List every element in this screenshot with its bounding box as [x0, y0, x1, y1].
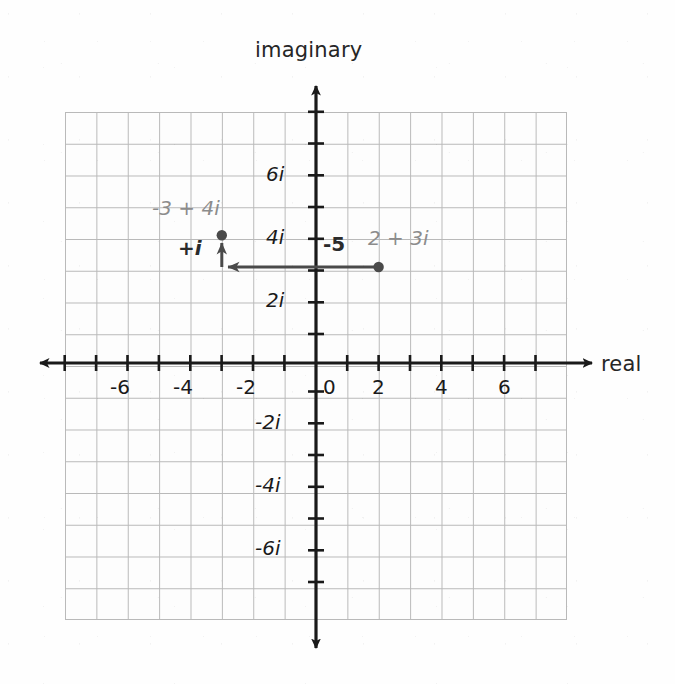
x-tick-label--6: -6: [110, 375, 130, 399]
x-tick-label-4: 4: [435, 375, 448, 399]
y-tick-label-2i: 2i: [266, 288, 284, 312]
x-tick-label--4: -4: [173, 375, 193, 399]
y-tick-label--2i: -2i: [255, 410, 281, 434]
horizontal-translation-label: -5: [323, 232, 345, 256]
point-label-minus3-plus-4i: -3 + 4i: [152, 196, 220, 220]
y-tick-label--6i: -6i: [255, 536, 281, 560]
vertical-translation-label: +i: [178, 236, 202, 260]
plot-overlay: [0, 0, 675, 684]
y-tick-label-4i: 4i: [266, 225, 284, 249]
complex-plane-figure: imaginary real -6 -4 -2 0 2 4 6 6i 4i 2i…: [0, 0, 675, 684]
point-marker-minus3-plus-4i: [217, 230, 227, 240]
x-tick-label-0: 0: [323, 375, 336, 399]
x-tick-label--2: -2: [236, 375, 256, 399]
x-tick-label-2: 2: [372, 375, 385, 399]
point-label-2-plus-3i: 2 + 3i: [368, 226, 428, 250]
y-tick-label--4i: -4i: [255, 473, 281, 497]
x-tick-label-6: 6: [498, 375, 511, 399]
point-marker-2-plus-3i: [373, 262, 383, 272]
y-tick-label-6i: 6i: [266, 162, 284, 186]
imaginary-axis-title: imaginary: [255, 38, 362, 62]
real-axis-title: real: [601, 352, 642, 376]
